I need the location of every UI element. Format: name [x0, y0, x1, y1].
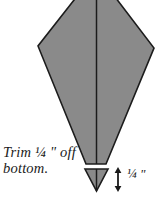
quarter-inch-measure-label: ¼ " [127, 167, 145, 181]
kite-pattern-diagram: Trim ¼ " off bottom. ¼ " [0, 0, 161, 197]
trim-instruction-line-1: Trim ¼ " off [3, 145, 76, 160]
dimension-arrow-head-down [115, 186, 122, 192]
quarter-inch-dimension-arrow [115, 167, 122, 192]
trim-instruction-text: Trim ¼ " off bottom. [3, 145, 76, 176]
dimension-arrow-head-up [115, 167, 122, 173]
trim-instruction-line-2: bottom. [3, 161, 76, 176]
